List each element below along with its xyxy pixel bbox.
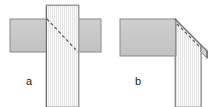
panel-b-left-plate <box>120 19 176 56</box>
panel-a-label: a <box>26 75 33 87</box>
technical-diagram: a b <box>0 0 214 107</box>
panel-a-right-plate <box>78 19 101 52</box>
panel-a-left-plate <box>10 19 47 52</box>
figure-container: a b <box>0 0 214 107</box>
panel-a-vertical-member <box>46 5 79 107</box>
panel-b-label: b <box>135 75 141 87</box>
